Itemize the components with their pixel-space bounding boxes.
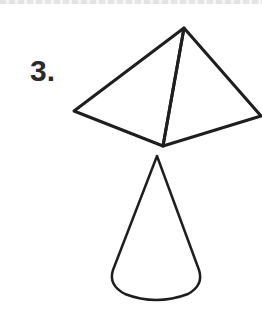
pyramid-shape xyxy=(74,28,261,146)
cone-shape xyxy=(112,156,200,300)
shapes-canvas xyxy=(0,0,262,312)
